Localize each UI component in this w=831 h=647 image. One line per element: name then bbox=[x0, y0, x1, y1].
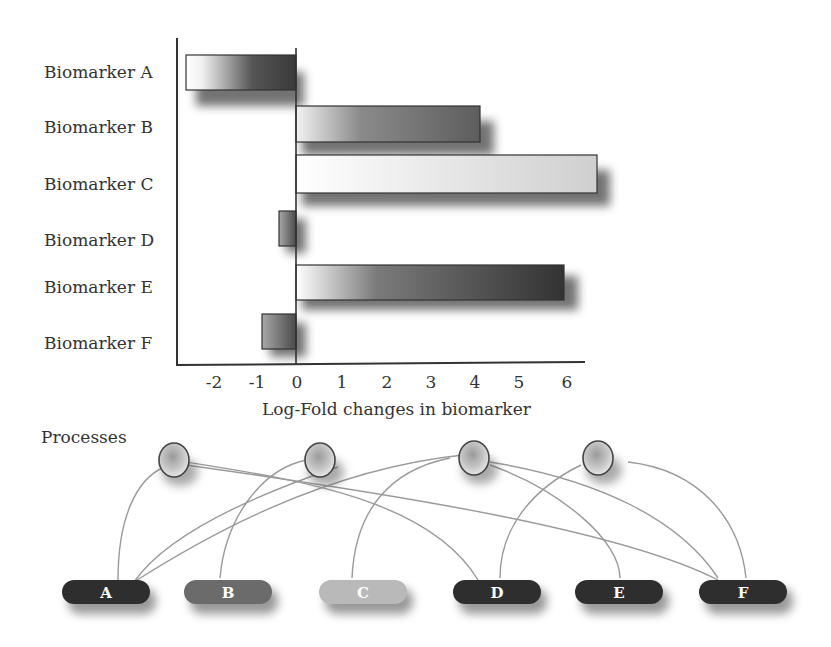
x-tick: 6 bbox=[562, 372, 573, 392]
x-tick: 5 bbox=[514, 372, 525, 392]
x-tick: 3 bbox=[426, 372, 437, 392]
chart-canvas: A B C D E F bbox=[0, 0, 831, 647]
pill-b-label: B bbox=[222, 584, 235, 602]
processes-title: Processes bbox=[41, 427, 127, 447]
x-tick: -2 bbox=[206, 372, 223, 392]
x-tick: 1 bbox=[337, 372, 348, 392]
bar-biomarker-c bbox=[296, 155, 597, 193]
process-nodes bbox=[159, 441, 622, 486]
pill-f-label: F bbox=[738, 584, 749, 602]
bar-biomarker-e bbox=[296, 265, 564, 300]
pill-c-label: C bbox=[357, 584, 369, 602]
x-tick: 0 bbox=[292, 372, 303, 392]
x-tick: 4 bbox=[470, 372, 481, 392]
pill-a-label: A bbox=[99, 584, 112, 602]
process-node-1 bbox=[159, 443, 189, 477]
bar-biomarker-a bbox=[186, 55, 296, 90]
x-axis bbox=[176, 362, 585, 365]
process-node-2 bbox=[305, 443, 335, 477]
x-tick: -1 bbox=[249, 372, 266, 392]
bar-biomarker-f bbox=[262, 314, 296, 349]
x-tick: 2 bbox=[382, 372, 393, 392]
pill-d-label: D bbox=[490, 584, 503, 602]
process-node-4 bbox=[583, 441, 613, 475]
x-axis-title: Log-Fold changes in biomarker bbox=[262, 399, 531, 419]
process-node-3 bbox=[459, 441, 489, 475]
pill-e-label: E bbox=[613, 584, 624, 602]
bar-biomarker-d bbox=[279, 211, 296, 246]
biomarker-pills: A B C D E F bbox=[62, 580, 793, 614]
network-edges bbox=[118, 455, 746, 582]
bar-biomarker-b bbox=[296, 106, 480, 142]
